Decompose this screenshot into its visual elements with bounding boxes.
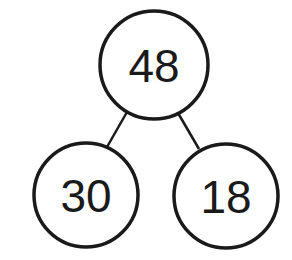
connector-right [178,113,199,149]
whole-node: 48 [100,11,208,119]
part-value-left: 30 [60,170,111,222]
part-node-right: 18 [174,144,278,248]
whole-value: 48 [128,40,179,92]
part-node-left: 30 [34,143,138,247]
number-bond-diagram: 48 30 18 [0,0,292,260]
part-value-right: 18 [200,171,251,223]
connector-left [107,112,127,147]
